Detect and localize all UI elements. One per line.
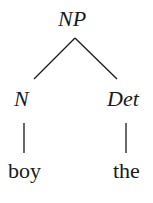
edge-np-det	[75, 38, 117, 79]
node-det: Det	[107, 88, 139, 110]
leaf-boy: boy	[8, 160, 41, 182]
leaf-the: the	[113, 160, 140, 182]
edge-np-n	[34, 38, 75, 79]
node-n: N	[14, 88, 29, 110]
syntax-tree: NP N Det boy the	[0, 0, 153, 203]
node-np: NP	[58, 8, 86, 30]
